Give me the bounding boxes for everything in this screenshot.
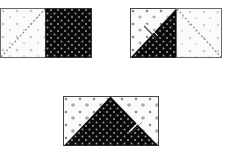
step-1-panel bbox=[0, 8, 93, 58]
step-2-illustration bbox=[130, 8, 223, 58]
step-1-illustration bbox=[0, 8, 93, 58]
step-2-panel bbox=[130, 8, 223, 58]
dark-square bbox=[46, 9, 92, 58]
step-3-illustration bbox=[63, 96, 159, 146]
step-3-panel bbox=[63, 96, 159, 146]
